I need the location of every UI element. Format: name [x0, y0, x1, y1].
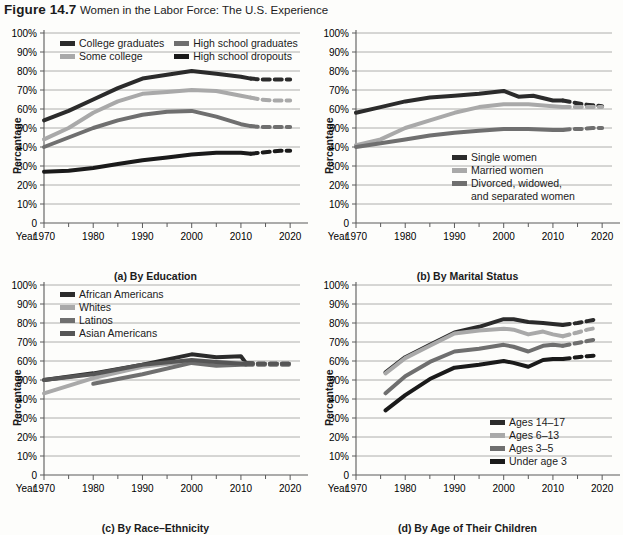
x-tick-label: 1980	[82, 231, 105, 242]
x-tick-label: 2000	[181, 231, 204, 242]
y-tick-label: 10%	[329, 451, 349, 462]
legend-swatch-icon	[452, 155, 467, 160]
legend-label: College graduates	[79, 37, 164, 49]
legend-item: Married women	[452, 164, 575, 176]
series-projection-line	[251, 126, 290, 127]
x-tick-label: 1990	[443, 231, 466, 242]
y-tick-label: 40%	[329, 142, 349, 153]
legend-swatch-icon	[490, 433, 505, 438]
y-tick-label: 60%	[329, 104, 349, 115]
y-tick-label: 90%	[17, 47, 37, 58]
x-axis-label: Year	[16, 483, 37, 494]
legend-swatch-icon	[490, 446, 505, 451]
legend-label: High school dropouts	[193, 50, 292, 62]
legend-item: Latinos	[60, 314, 164, 326]
y-tick-label: 20%	[329, 432, 349, 443]
y-tick-label: 100%	[11, 280, 37, 291]
x-tick-label: 2000	[493, 231, 516, 242]
x-tick-label: 1970	[33, 483, 56, 494]
x-tick-label: 2010	[542, 483, 565, 494]
series-projection-line	[563, 355, 597, 359]
panel-a-legend: College graduates Some college High scho…	[60, 37, 298, 63]
legend-swatch-icon	[60, 331, 75, 336]
x-tick-label: 1990	[131, 483, 154, 494]
x-tick-label: 2000	[181, 483, 204, 494]
y-tick-label: 30%	[17, 161, 37, 172]
legend-item: African Americans	[60, 288, 164, 300]
series-line	[44, 153, 251, 172]
series-projection-line	[563, 319, 597, 325]
y-tick-label: 100%	[11, 28, 37, 39]
legend-swatch-icon	[60, 318, 75, 323]
legend-label: Under age 3	[509, 455, 567, 467]
panel-a-legend-col-1: College graduates Some college	[60, 37, 164, 63]
y-tick-label: 40%	[17, 394, 37, 405]
figure-number: Figure 14.7	[4, 2, 76, 17]
y-tick-label: 70%	[17, 337, 37, 348]
panel-b-legend: Single women Married women Divorced, wid…	[452, 151, 575, 202]
y-tick-label: 0	[343, 470, 349, 481]
y-tick-label: 80%	[17, 318, 37, 329]
figure-title-text: Women in the Labor Force: The U.S. Exper…	[80, 4, 328, 16]
legend-item: Ages 14–17	[490, 416, 567, 428]
legend-item: Ages 3–5	[490, 442, 567, 454]
x-tick-label: 1970	[33, 231, 56, 242]
y-tick-label: 50%	[329, 375, 349, 386]
x-tick-label: 2010	[230, 483, 253, 494]
legend-swatch-icon	[60, 41, 75, 46]
x-tick-label: 1980	[394, 483, 417, 494]
y-tick-label: 80%	[329, 318, 349, 329]
legend-item: College graduates	[60, 37, 164, 49]
legend-item: High school graduates	[174, 37, 297, 49]
series-projection-line	[251, 98, 290, 101]
y-tick-label: 20%	[17, 180, 37, 191]
y-tick-label: 0	[343, 218, 349, 229]
legend-item: Under age 3	[490, 455, 567, 467]
x-tick-label: 1990	[443, 483, 466, 494]
y-tick-label: 0	[31, 470, 37, 481]
x-tick-label: 2020	[279, 231, 302, 242]
legend-item: Ages 6–13	[490, 429, 567, 441]
panel-d-legend: Ages 14–17 Ages 6–13 Ages 3–5 Under age …	[490, 416, 567, 468]
series-line	[44, 360, 246, 380]
legend-swatch-icon	[60, 305, 75, 310]
y-tick-label: 60%	[17, 104, 37, 115]
y-tick-label: 10%	[17, 451, 37, 462]
panel-c-legend: African Americans Whites Latinos Asian A…	[60, 288, 164, 340]
y-tick-label: 30%	[329, 161, 349, 172]
legend-item: Whites	[60, 301, 164, 313]
y-tick-label: 90%	[329, 47, 349, 58]
y-tick-label: 60%	[329, 356, 349, 367]
x-tick-label: 1970	[345, 483, 368, 494]
series-projection-line	[251, 79, 290, 80]
panel-c-caption: (c) By Race–Ethnicity	[0, 522, 311, 534]
x-axis-label: Year	[328, 483, 349, 494]
x-tick-label: 1980	[394, 231, 417, 242]
legend-swatch-icon	[452, 181, 467, 186]
panel-d-by-age-of-children: Percentage 100%90%80%70%60%50%40%30%20%1…	[312, 276, 623, 531]
panel-d-plot: 100%90%80%70%60%50%40%30%20%10%019701980…	[312, 276, 623, 501]
y-tick-label: 60%	[17, 356, 37, 367]
x-tick-label: 2010	[542, 231, 565, 242]
x-axis-label: Year	[328, 231, 349, 242]
series-line	[386, 359, 563, 410]
legend-swatch-icon	[174, 41, 189, 46]
legend-swatch-icon	[60, 54, 75, 59]
y-tick-label: 50%	[329, 123, 349, 134]
legend-label: Whites	[79, 301, 111, 313]
legend-label: High school graduates	[193, 37, 297, 49]
legend-label: Asian Americans	[79, 327, 157, 339]
series-projection-line	[563, 339, 597, 346]
panel-b-by-marital-status: Percentage 100%90%80%70%60%50%40%30%20%1…	[312, 24, 623, 274]
panel-b-plot: 100%90%80%70%60%50%40%30%20%10%019701980…	[312, 24, 623, 249]
y-tick-label: 40%	[329, 394, 349, 405]
y-tick-label: 80%	[329, 66, 349, 77]
legend-label: Divorced, widowed,	[471, 177, 562, 189]
y-tick-label: 10%	[17, 199, 37, 210]
y-tick-label: 100%	[323, 280, 349, 291]
panel-a-by-education: Percentage 100%90%80%70%60%50%40%30%20%1…	[0, 24, 311, 274]
x-tick-label: 1990	[131, 231, 154, 242]
y-tick-label: 90%	[329, 299, 349, 310]
x-axis-label: Year	[16, 231, 37, 242]
legend-label: Some college	[79, 50, 143, 62]
